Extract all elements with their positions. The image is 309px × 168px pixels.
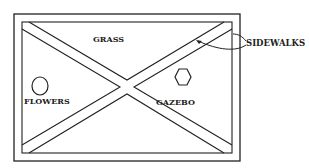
flowers-label: FLOWERS	[24, 96, 70, 106]
gazebo-label: GAZEBO	[156, 97, 195, 107]
gazebo-hexagon-icon	[175, 69, 191, 85]
flowers-circle-icon	[32, 77, 48, 95]
park-diagram: FLOWERS GAZEBO GRASS SIDEWALKS	[0, 0, 309, 168]
grass-label: GRASS	[93, 34, 124, 44]
sidewalks-label: SIDEWALKS	[246, 38, 305, 48]
